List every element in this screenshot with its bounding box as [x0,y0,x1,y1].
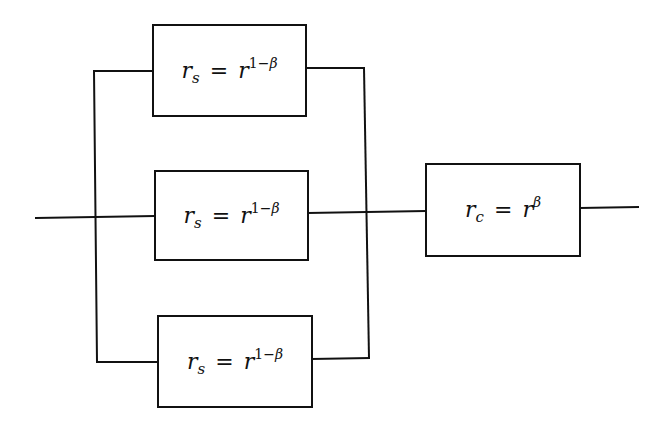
block-label: rs=r1−β [184,200,280,232]
block-series-common: rc=rβ [425,163,581,257]
block-parallel-bottom: rs=r1−β [157,315,313,408]
block-parallel-middle: rs=r1−β [154,170,309,261]
series-wire [308,211,425,213]
output-wire [580,207,638,208]
block-label: rc=rβ [465,194,541,226]
block-parallel-top: rs=r1−β [152,24,307,117]
block-label: rs=r1−β [182,55,278,87]
diagram-canvas: rs=r1−β rs=r1−β rs=r1−β rc=rβ [0,0,665,431]
bottom-branch-out [312,358,369,359]
block-label: rs=r1−β [187,346,283,378]
